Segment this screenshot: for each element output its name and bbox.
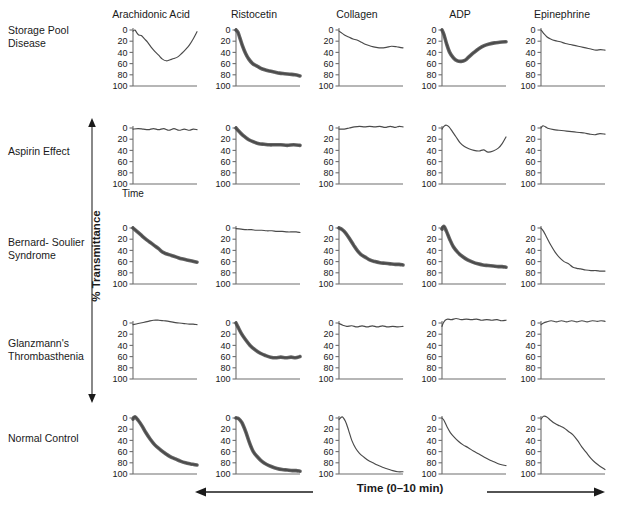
plot-bernard-soulier-syndrome-ristocetin: 020406080100 (208, 218, 304, 304)
y-tick-label: 100 (112, 374, 127, 384)
column-header-ristocetin: Ristocetin (208, 8, 300, 20)
y-tick-label: 60 (220, 352, 230, 362)
y-tick-label: 80 (525, 268, 535, 278)
y-tick-label: 0 (328, 318, 333, 328)
y-tick-label: 0 (225, 413, 230, 423)
y-tick-label: 60 (323, 157, 333, 167)
y-tick-label: 100 (112, 81, 127, 91)
y-tick-label: 80 (426, 363, 436, 373)
y-tick-label: 0 (530, 223, 535, 233)
y-tick-label: 40 (117, 246, 127, 256)
column-header-epinephrine: Epinephrine (513, 8, 611, 20)
y-tick-label: 80 (323, 268, 333, 278)
y-tick-label: 100 (215, 374, 230, 384)
y-tick-label: 40 (426, 246, 436, 256)
y-tick-label: 0 (431, 123, 436, 133)
y-tick-label: 20 (525, 36, 535, 46)
y-tick-label: 20 (117, 36, 127, 46)
y-tick-label: 60 (426, 157, 436, 167)
y-tick-label: 100 (112, 279, 127, 289)
aggregation-curve (541, 416, 605, 469)
plot-aspirin-effect-ristocetin: 020406080100 (208, 118, 304, 204)
aggregation-curve (133, 228, 197, 262)
aggregation-curve (236, 128, 300, 145)
y-tick-label: 40 (525, 341, 535, 351)
y-tick-label: 0 (122, 25, 127, 35)
y-tick-label: 0 (328, 223, 333, 233)
plot-glanzmann-s-thrombasthenia-epinephrine: 020406080100 (513, 313, 609, 399)
y-tick-label: 0 (328, 25, 333, 35)
plot-glanzmann-s-thrombasthenia-arachidonic-acid: 020406080100 (105, 313, 201, 399)
y-tick-label: 80 (220, 268, 230, 278)
plot-aspirin-effect-epinephrine: 020406080100 (513, 118, 609, 204)
y-tick-label: 40 (525, 48, 535, 58)
y-tick-label: 80 (323, 70, 333, 80)
plot-glanzmann-s-thrombasthenia-collagen: 020406080100 (311, 313, 407, 399)
row-label-glanzmanns-thrombasthenia: Glanzmann's Thrombasthenia (8, 337, 86, 362)
y-tick-label: 100 (421, 279, 436, 289)
plot-storage-pool-disease-collagen: 020406080100 (311, 20, 407, 106)
aggregation-oscillation-band (442, 226, 506, 267)
y-tick-label: 40 (117, 436, 127, 446)
y-tick-label: 80 (525, 70, 535, 80)
y-tick-label: 60 (220, 447, 230, 457)
y-tick-label: 80 (426, 458, 436, 468)
y-tick-label: 0 (225, 25, 230, 35)
y-tick-label: 0 (530, 25, 535, 35)
y-tick-label: 20 (117, 234, 127, 244)
y-tick-label: 60 (426, 257, 436, 267)
y-tick-label: 100 (520, 469, 535, 479)
aggregation-curve (133, 129, 197, 131)
aggregation-curve (133, 320, 197, 325)
y-tick-label: 20 (525, 424, 535, 434)
y-tick-label: 100 (318, 179, 333, 189)
y-tick-label: 60 (525, 447, 535, 457)
plot-normal-control-adp: 020406080100 (414, 408, 510, 494)
row-label-bernard-soulier-syndrome: Bernard- Soulier Syndrome (8, 236, 86, 261)
y-tick-label: 100 (215, 279, 230, 289)
y-tick-label: 80 (426, 168, 436, 178)
y-tick-label: 80 (525, 168, 535, 178)
y-tick-label: 20 (323, 424, 333, 434)
y-tick-label: 0 (122, 123, 127, 133)
y-tick-label: 100 (318, 81, 333, 91)
y-tick-label: 100 (421, 469, 436, 479)
y-tick-label: 0 (122, 318, 127, 328)
y-tick-label: 60 (220, 257, 230, 267)
aggregation-curve (339, 324, 403, 327)
y-tick-label: 80 (323, 458, 333, 468)
plot-storage-pool-disease-adp: 020406080100 (414, 20, 510, 106)
y-tick-label: 40 (525, 146, 535, 156)
y-tick-label: 40 (323, 246, 333, 256)
y-tick-label: 60 (117, 157, 127, 167)
y-tick-label: 20 (525, 329, 535, 339)
y-tick-label: 40 (323, 341, 333, 351)
y-tick-label: 20 (323, 329, 333, 339)
row-label-storage-pool-disease: Storage Pool Disease (8, 24, 86, 49)
y-tick-label: 20 (426, 329, 436, 339)
y-tick-label: 60 (220, 157, 230, 167)
plot-normal-control-epinephrine: 020406080100 (513, 408, 609, 494)
y-tick-label: 20 (525, 234, 535, 244)
y-tick-label: 40 (220, 146, 230, 156)
plot-aspirin-effect-arachidonic-acid: 020406080100 (105, 118, 201, 204)
y-tick-label: 40 (117, 146, 127, 156)
plot-normal-control-ristocetin: 020406080100 (208, 408, 304, 494)
y-tick-label: 40 (525, 436, 535, 446)
plot-aspirin-effect-collagen: 020406080100 (311, 118, 407, 204)
y-tick-label: 20 (220, 234, 230, 244)
plot-aspirin-effect-adp: 020406080100 (414, 118, 510, 204)
y-tick-label: 80 (220, 363, 230, 373)
y-tick-label: 0 (328, 123, 333, 133)
y-axis-label-group: % Transmittance (84, 118, 100, 403)
y-tick-label: 40 (323, 436, 333, 446)
y-tick-label: 20 (323, 36, 333, 46)
aggregation-curve (541, 228, 605, 271)
y-tick-label: 80 (426, 70, 436, 80)
aggregation-oscillation-band (339, 228, 403, 265)
y-tick-label: 80 (426, 268, 436, 278)
y-tick-label: 60 (525, 59, 535, 69)
y-tick-label: 20 (323, 134, 333, 144)
y-tick-label: 100 (215, 81, 230, 91)
y-tick-label: 20 (323, 234, 333, 244)
